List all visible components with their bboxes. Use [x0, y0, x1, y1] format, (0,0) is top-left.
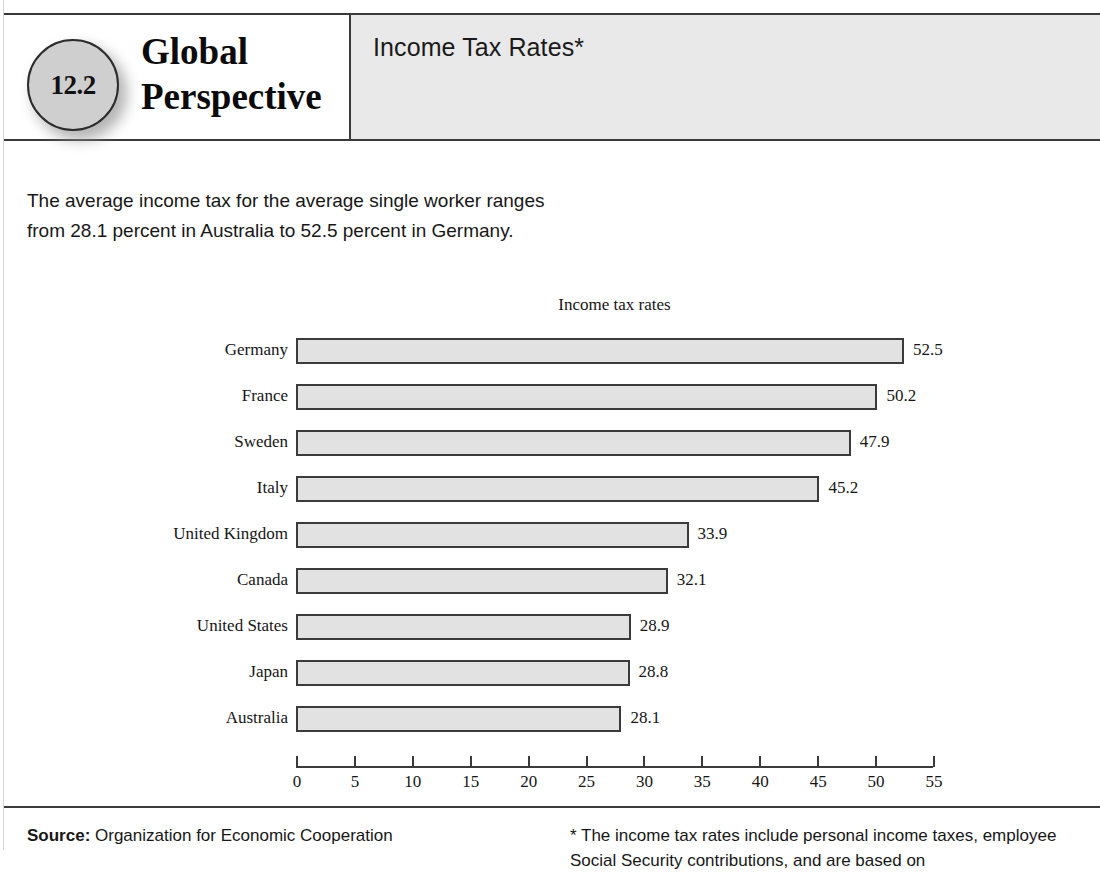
x-axis-tick-label: 50 [856, 772, 896, 792]
x-axis-tick [701, 756, 703, 767]
x-axis-tick [817, 756, 819, 767]
source-note: Source: Organization for Economic Cooper… [27, 823, 547, 848]
x-axis-tick [759, 756, 761, 767]
bar-category-label: Canada [237, 570, 288, 590]
bar-value-label: 45.2 [828, 478, 858, 498]
source-text: Organization for Economic Cooperation [90, 826, 392, 845]
x-axis-line [296, 766, 933, 768]
bar-row: Germany52.5 [0, 336, 1100, 366]
chart-title: Income tax rates [296, 295, 933, 315]
bar-value-label: 50.2 [886, 386, 916, 406]
x-axis-tick-label: 0 [277, 772, 317, 792]
bar-category-label: United States [197, 616, 288, 636]
bar [296, 614, 631, 640]
chart-plot-area: Germany52.5France50.2Sweden47.9Italy45.2… [0, 336, 1100, 756]
header-title-panel: Income Tax Rates* [349, 15, 1100, 139]
bar-value-label: 28.9 [640, 616, 670, 636]
bar-value-label: 28.1 [630, 708, 660, 728]
bar-row: France50.2 [0, 382, 1100, 412]
bar-category-label: Japan [249, 662, 288, 682]
bar-value-label: 52.5 [913, 340, 943, 360]
x-axis-tick [643, 756, 645, 767]
bar [296, 660, 630, 686]
bar-row: Italy45.2 [0, 474, 1100, 504]
intro-paragraph: The average income tax for the average s… [27, 186, 587, 246]
x-axis-tick [528, 756, 530, 767]
bar [296, 522, 689, 548]
bar-row: United Kingdom33.9 [0, 520, 1100, 550]
x-axis-tick [354, 756, 356, 767]
x-axis-tick [296, 756, 298, 767]
bar-value-label: 32.1 [677, 570, 707, 590]
bar-row: Canada32.1 [0, 566, 1100, 596]
brand-title: Global Perspective [141, 29, 322, 119]
bar-row: Japan28.8 [0, 658, 1100, 688]
chart-container: Income tax rates Germany52.5France50.2Sw… [0, 295, 1100, 795]
x-axis-tick [586, 756, 588, 767]
bar-category-label: France [242, 386, 288, 406]
bar [296, 338, 904, 364]
x-axis-tick [875, 756, 877, 767]
x-axis-tick-label: 40 [740, 772, 780, 792]
bar [296, 430, 851, 456]
page-title: Income Tax Rates* [373, 33, 584, 62]
footnote-line-1: * The income tax rates include personal … [570, 826, 978, 845]
x-axis-tick-label: 25 [567, 772, 607, 792]
bar [296, 384, 877, 410]
bar-category-label: Germany [225, 340, 288, 360]
bar [296, 568, 668, 594]
bar-row: Australia28.1 [0, 704, 1100, 734]
bar [296, 706, 621, 732]
bar-row: Sweden47.9 [0, 428, 1100, 458]
footer-rule [4, 806, 1100, 808]
x-axis-tick-label: 15 [451, 772, 491, 792]
bar [296, 476, 819, 502]
footer: Source: Organization for Economic Cooper… [0, 810, 1100, 850]
bar-row: United States28.9 [0, 612, 1100, 642]
bar-category-label: Italy [257, 478, 288, 498]
brand-title-line-2: Perspective [141, 74, 322, 119]
bar-category-label: United Kingdom [173, 524, 288, 544]
header-band: 12.2 Global Perspective Income Tax Rates… [4, 13, 1100, 141]
x-axis-tick [412, 756, 414, 767]
brand-title-line-1: Global [141, 29, 322, 74]
bar-value-label: 47.9 [860, 432, 890, 452]
x-axis-tick-label: 20 [509, 772, 549, 792]
section-number-badge: 12.2 [27, 39, 119, 131]
chart-x-axis: 0510152025303540455055 [296, 756, 933, 796]
x-axis-tick-label: 30 [624, 772, 664, 792]
x-axis-tick-label: 10 [393, 772, 433, 792]
x-axis-tick-label: 55 [914, 772, 954, 792]
x-axis-tick [470, 756, 472, 767]
header-bottom-rule [4, 139, 1100, 141]
bar-category-label: Australia [226, 708, 288, 728]
bar-value-label: 33.9 [698, 524, 728, 544]
bar-category-label: Sweden [234, 432, 288, 452]
footnote: * The income tax rates include personal … [570, 823, 1090, 873]
x-axis-tick-label: 35 [682, 772, 722, 792]
source-label: Source: [27, 826, 90, 845]
section-number: 12.2 [50, 70, 95, 101]
x-axis-tick [933, 756, 935, 767]
bar-value-label: 28.8 [639, 662, 669, 682]
x-axis-tick-label: 45 [798, 772, 838, 792]
x-axis-tick-label: 5 [335, 772, 375, 792]
header-brand-panel: 12.2 Global Perspective [4, 15, 347, 139]
